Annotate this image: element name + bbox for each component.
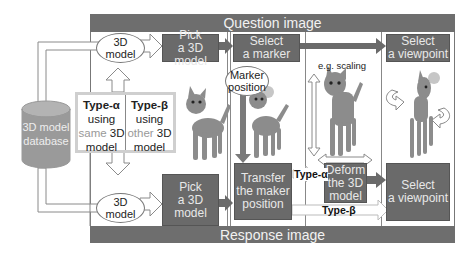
r-deform-line2: the 3D	[328, 177, 363, 190]
type-beta-heading: Type-β	[126, 98, 173, 112]
q-pick-line2: a 3D model	[163, 42, 218, 68]
marker-ellipse-line1: Marker	[230, 69, 264, 81]
response-pick-3d-model-box: Pick a 3D model	[162, 174, 219, 226]
type-beta-column: Type-β using other 3D model	[125, 95, 173, 150]
type-alpha-column: Type-α using same 3D model	[78, 95, 125, 150]
q-select-viewpoint-line2: a viewpoint	[388, 48, 448, 61]
r-select-viewpoint-line2: a viewpoint	[388, 192, 448, 205]
top-3d-model-ellipse: 3D model	[96, 33, 145, 63]
type-beta-line3: model	[126, 140, 173, 154]
type-beta-tag: Type-β	[322, 204, 356, 217]
type-alpha-strong: 3D	[110, 127, 125, 139]
bottom-3d-model-ellipse: 3D model	[96, 193, 145, 223]
type-alpha-line1: using	[78, 112, 125, 126]
r-pick-line1: Pick	[179, 181, 202, 194]
bottom-ellipse-line1: 3D	[113, 196, 127, 208]
database-icon	[22, 101, 70, 169]
marker-ellipse-line2: position	[228, 81, 266, 93]
type-alpha-beta-box: Type-α using same 3D model Type-β using …	[75, 92, 176, 153]
response-deform-model-box: Deform the 3D model	[324, 163, 367, 203]
q-pick-line1: Pick	[179, 29, 202, 42]
question-select-viewpoint-box: Select a viewpoint	[386, 34, 450, 62]
question-pick-3d-model-box: Pick a 3D model	[162, 34, 219, 62]
response-transfer-marker-box: Transfer the maker position	[234, 163, 292, 220]
type-beta-line1: using	[126, 112, 173, 126]
question-select-marker-box: Select a marker	[233, 34, 300, 62]
r-deform-line1: Deform	[326, 164, 365, 177]
r-deform-line3: model	[329, 190, 362, 203]
type-alpha-line3: model	[78, 140, 125, 154]
type-alpha-heading: Type-α	[78, 98, 125, 112]
scaling-note: e.g. scaling	[318, 60, 366, 71]
type-alpha-tag: Type-α	[294, 168, 328, 181]
top-ellipse-line2: model	[106, 48, 136, 60]
top-ellipse-line1: 3D	[113, 36, 127, 48]
bottom-ellipse-line2: model	[106, 208, 136, 220]
type-beta-strong: 3D	[157, 127, 172, 139]
r-pick-line2: a 3D model	[163, 194, 218, 220]
r-transfer-line3: position	[242, 198, 283, 211]
q-select-marker-line2: a marker	[243, 48, 290, 61]
type-alpha-muted: same	[78, 127, 106, 139]
type-beta-muted: other	[127, 127, 153, 139]
response-select-viewpoint-box: Select a viewpoint	[386, 163, 450, 221]
marker-position-ellipse: Marker position	[225, 66, 269, 96]
